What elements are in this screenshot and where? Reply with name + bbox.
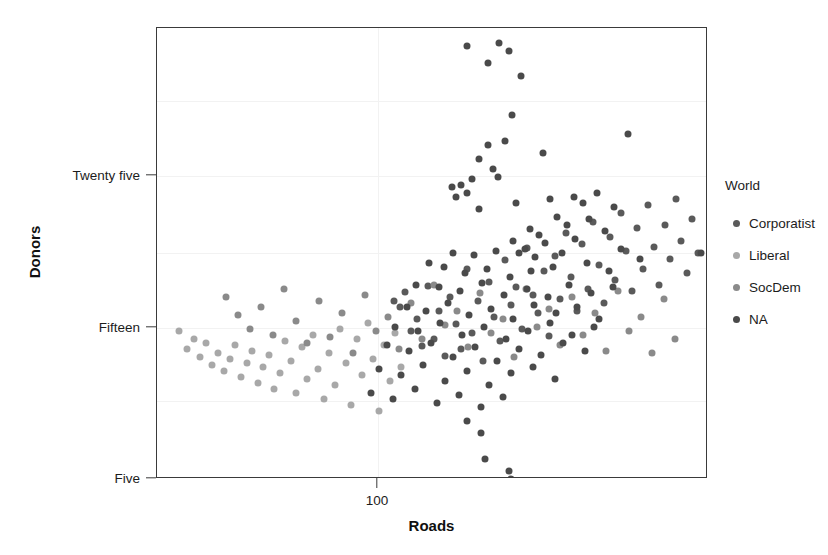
legend-item-corporatist[interactable]: Corporatist: [725, 207, 825, 239]
data-point: [534, 324, 541, 331]
data-point: [247, 326, 254, 333]
data-point: [530, 364, 537, 371]
data-point: [486, 279, 493, 286]
data-point: [606, 268, 613, 275]
data-point: [442, 378, 449, 385]
gridline-horizontal: [157, 176, 706, 177]
data-point: [618, 246, 625, 253]
data-point: [501, 292, 508, 299]
data-point: [255, 380, 262, 387]
data-point: [661, 296, 668, 303]
data-point: [651, 244, 658, 251]
gridline-horizontal: [157, 328, 706, 329]
data-point: [232, 342, 239, 349]
data-point: [547, 196, 554, 203]
data-point: [607, 234, 614, 241]
data-point: [458, 182, 465, 189]
data-point: [385, 314, 392, 321]
data-point: [368, 390, 375, 397]
data-point: [557, 296, 564, 303]
data-point: [554, 214, 561, 221]
data-point: [513, 200, 520, 207]
data-point: [582, 348, 589, 355]
data-point: [404, 304, 411, 311]
data-point: [588, 290, 595, 297]
data-point: [610, 284, 617, 291]
legend-item-label: NA: [749, 312, 768, 327]
data-point: [566, 282, 573, 289]
data-point: [365, 320, 372, 327]
data-point: [437, 320, 444, 327]
data-point: [434, 400, 441, 407]
data-point: [316, 298, 323, 305]
data-point: [391, 298, 398, 305]
data-point: [376, 366, 383, 373]
data-point: [258, 304, 265, 311]
data-point: [673, 196, 680, 203]
data-point: [478, 404, 485, 411]
data-point: [359, 372, 366, 379]
data-point: [419, 336, 426, 343]
data-point: [476, 206, 483, 213]
data-point: [508, 476, 515, 479]
data-point: [396, 346, 403, 353]
data-point: [456, 392, 463, 399]
data-point: [494, 358, 501, 365]
data-point: [442, 353, 449, 360]
legend-item-label: Corporatist: [749, 216, 815, 231]
data-point: [428, 340, 435, 347]
data-point: [277, 370, 284, 377]
legend-item-liberal[interactable]: Liberal: [725, 239, 825, 271]
legend-item-na[interactable]: NA: [725, 303, 825, 335]
data-point: [532, 254, 539, 261]
data-point: [398, 372, 405, 379]
data-point: [244, 360, 251, 367]
data-point: [502, 138, 509, 145]
data-point: [450, 250, 457, 257]
data-point: [525, 328, 532, 335]
data-point: [508, 302, 515, 309]
data-point: [522, 246, 529, 253]
data-point: [209, 362, 216, 369]
data-point: [475, 298, 482, 305]
data-point: [398, 364, 405, 371]
y-tick-label: Fifteen: [99, 320, 140, 335]
data-point: [601, 300, 608, 307]
data-point: [508, 370, 515, 377]
data-point: [445, 300, 452, 307]
data-point: [350, 350, 357, 357]
data-point: [502, 257, 509, 264]
gridline-horizontal: [157, 101, 706, 102]
data-point: [531, 302, 538, 309]
data-point: [441, 264, 448, 271]
data-point: [457, 288, 464, 295]
data-point: [354, 336, 361, 343]
data-point: [293, 390, 300, 397]
legend-item-socdem[interactable]: SocDem: [725, 271, 825, 303]
data-point: [506, 468, 513, 475]
data-point: [545, 294, 552, 301]
data-point: [476, 156, 483, 163]
data-point: [337, 326, 344, 333]
data-point: [560, 340, 567, 347]
legend-item-label: Liberal: [749, 248, 790, 263]
data-point: [564, 222, 571, 229]
data-point: [530, 292, 537, 299]
data-point: [238, 374, 245, 381]
data-point: [535, 310, 542, 317]
data-point: [326, 350, 333, 357]
data-point: [518, 73, 525, 80]
data-point: [649, 350, 656, 357]
data-point: [568, 274, 575, 281]
data-point: [221, 368, 228, 375]
x-tick-mark: [376, 478, 377, 488]
data-point: [563, 230, 570, 237]
y-axis-title: Donors: [26, 226, 43, 279]
data-point: [546, 306, 553, 313]
data-point: [235, 312, 242, 319]
data-point: [343, 360, 350, 367]
legend-swatch-icon: [733, 316, 740, 323]
data-point: [339, 310, 346, 317]
data-point: [414, 316, 421, 323]
data-point: [536, 232, 543, 239]
